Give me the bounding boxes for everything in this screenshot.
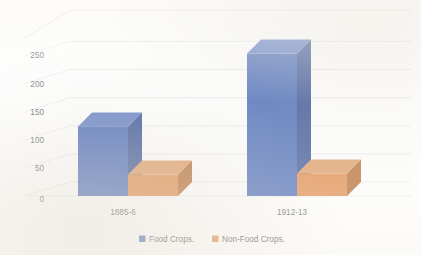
column-chart-3d: 250 200 150 100 50 0 1885-6 1912-13: [0, 0, 421, 255]
chart-container: 250 200 150 100 50 0 1885-6 1912-13: [0, 0, 421, 255]
y-tick-250: 250: [30, 51, 44, 60]
legend-swatch-food-crops: [139, 236, 146, 243]
y-tick-200: 200: [30, 80, 44, 89]
x-axis-labels: 1885-6 1912-13: [110, 208, 307, 217]
chart-side-wall: [25, 10, 70, 196]
legend-label-non-food-crops[interactable]: Non-Food Crops.: [222, 235, 285, 244]
category-label-1912-13: 1912-13: [277, 208, 307, 217]
chart-legend: Food Crops. Non-Food Crops.: [139, 235, 285, 244]
legend-label-food-crops[interactable]: Food Crops.: [149, 235, 194, 244]
y-tick-100: 100: [30, 136, 44, 145]
y-tick-50: 50: [35, 164, 45, 173]
category-label-1885-6: 1885-6: [110, 208, 136, 217]
bar-1912-13-non-food-crops: [297, 160, 361, 197]
bar-1885-6-non-food-crops: [128, 161, 192, 196]
y-tick-0: 0: [39, 195, 44, 204]
legend-swatch-non-food-crops: [212, 236, 219, 243]
y-tick-150: 150: [30, 108, 44, 117]
